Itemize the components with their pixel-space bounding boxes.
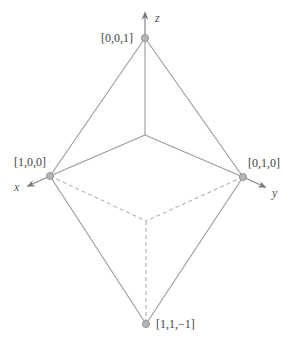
axis-label-y: y [271, 186, 278, 200]
octahedron-diagram: [0,0,1] [1,0,0] [0,1,0] [1,1,−1] z x y [0, 0, 298, 345]
vertex-left [46, 172, 53, 179]
dashed-edges [50, 176, 243, 324]
vertex-right [239, 173, 246, 180]
vertex-top [141, 34, 148, 41]
vertex-label-left: [1,0,0] [14, 155, 46, 169]
vertex-label-bottom: [1,1,−1] [156, 317, 195, 331]
vertices [46, 34, 246, 327]
edge-right-bottom [146, 177, 243, 324]
axis-label-x: x [13, 180, 20, 194]
axis-label-z: z [154, 11, 160, 25]
vertex-bottom [142, 320, 149, 327]
diagram-canvas: [0,0,1] [1,0,0] [0,1,0] [1,1,−1] z x y [0, 0, 298, 345]
solid-edges [50, 38, 243, 324]
vertex-label-right: [0,1,0] [248, 156, 280, 170]
vertex-label-top: [0,0,1] [101, 31, 133, 45]
